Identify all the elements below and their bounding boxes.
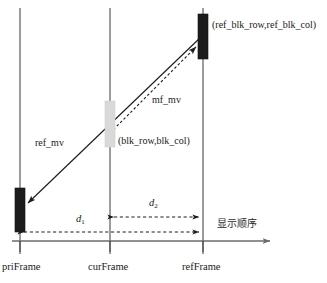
measure-d2-subscript: 2 xyxy=(154,202,158,210)
mf-mv-label: mf_mv xyxy=(152,95,181,105)
motion-vector-timeline-diagram: (ref_blk_row,ref_blk_col) (blk_row,blk_c… xyxy=(0,0,327,283)
frame-label-priFrame: priFrame xyxy=(2,262,41,273)
measure-d1-label: d1 xyxy=(76,214,85,225)
ref-block-coord-label: (ref_blk_row,ref_blk_col) xyxy=(212,20,316,30)
measure-d1-subscript: 1 xyxy=(81,218,85,226)
pri-block xyxy=(15,188,25,232)
frame-label-curFrame: curFrame xyxy=(88,262,128,273)
ref-mv-label: ref_mv xyxy=(35,138,64,148)
cur-block-coord-label: (blk_row,blk_col) xyxy=(118,136,190,146)
cur-block xyxy=(105,101,115,147)
display-order-axis-label: 显示顺序 xyxy=(217,219,257,229)
mf-mv-arrow xyxy=(110,47,196,133)
ref-block xyxy=(198,14,208,59)
measure-d2-label: d2 xyxy=(149,198,158,209)
frame-label-refFrame: refFrame xyxy=(182,262,220,273)
axis-ticks xyxy=(20,241,203,254)
